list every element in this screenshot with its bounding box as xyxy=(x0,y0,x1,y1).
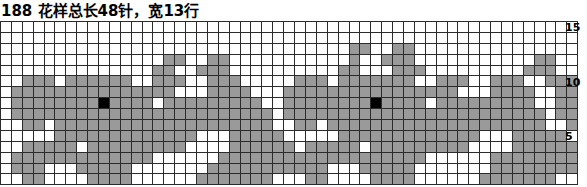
pattern-cell xyxy=(207,87,218,98)
pattern-grid-row xyxy=(1,120,578,131)
pattern-cell xyxy=(142,22,153,33)
pattern-cell xyxy=(164,141,175,152)
pattern-cell xyxy=(109,54,120,65)
pattern-cell xyxy=(88,87,99,98)
pattern-cell xyxy=(77,43,88,54)
pattern-grid-row xyxy=(1,32,578,43)
pattern-grid xyxy=(0,21,578,185)
pattern-cell xyxy=(251,174,262,185)
pattern-cell xyxy=(338,76,349,87)
pattern-cell xyxy=(447,174,458,185)
pattern-cell xyxy=(273,54,284,65)
pattern-cell xyxy=(403,98,414,109)
pattern-cell xyxy=(186,120,197,131)
pattern-cell xyxy=(469,87,480,98)
pattern-cell xyxy=(33,174,44,185)
pattern-cell xyxy=(262,130,273,141)
pattern-cell xyxy=(11,98,22,109)
pattern-cell xyxy=(480,65,491,76)
pattern-cell xyxy=(273,32,284,43)
pattern-cell xyxy=(88,120,99,131)
pattern-cell xyxy=(523,130,534,141)
pattern-cell xyxy=(99,163,110,174)
pattern-cell xyxy=(142,32,153,43)
pattern-cell xyxy=(382,130,393,141)
pattern-cell xyxy=(480,163,491,174)
pattern-cell xyxy=(545,65,556,76)
pattern-cell xyxy=(567,174,578,185)
pattern-cell xyxy=(284,76,295,87)
pattern-cell xyxy=(1,120,12,131)
pattern-cell xyxy=(1,109,12,120)
pattern-cell xyxy=(99,43,110,54)
pattern-cell xyxy=(382,32,393,43)
pattern-cell xyxy=(295,65,306,76)
pattern-cell xyxy=(480,43,491,54)
pattern-cell xyxy=(131,54,142,65)
pattern-cell xyxy=(153,32,164,43)
pattern-cell xyxy=(447,22,458,33)
pattern-cell xyxy=(556,163,567,174)
pattern-cell xyxy=(88,65,99,76)
pattern-cell xyxy=(207,174,218,185)
pattern-cell xyxy=(1,98,12,109)
pattern-cell xyxy=(284,54,295,65)
pattern-cell xyxy=(120,109,131,120)
pattern-cell xyxy=(371,43,382,54)
pattern-cell xyxy=(262,87,273,98)
pattern-cell xyxy=(480,22,491,33)
pattern-cell xyxy=(142,98,153,109)
pattern-cell xyxy=(88,163,99,174)
pattern-cell xyxy=(55,174,66,185)
page-title: 188 花样总长48针，宽13行 xyxy=(0,2,199,20)
pattern-cell xyxy=(338,120,349,131)
pattern-cell xyxy=(251,32,262,43)
pattern-cell xyxy=(240,120,251,131)
pattern-cell xyxy=(175,98,186,109)
pattern-cell xyxy=(316,141,327,152)
pattern-cell xyxy=(11,163,22,174)
pattern-cell xyxy=(480,174,491,185)
pattern-cell xyxy=(33,109,44,120)
pattern-cell xyxy=(382,109,393,120)
pattern-cell xyxy=(393,120,404,131)
pattern-cell xyxy=(425,120,436,131)
pattern-cell xyxy=(44,163,55,174)
pattern-cell xyxy=(251,152,262,163)
pattern-cell xyxy=(436,130,447,141)
pattern-cell xyxy=(523,174,534,185)
pattern-cell xyxy=(11,32,22,43)
pattern-cell xyxy=(512,152,523,163)
pattern-cell xyxy=(327,43,338,54)
pattern-cell xyxy=(229,98,240,109)
pattern-cell xyxy=(480,141,491,152)
pattern-cell xyxy=(11,87,22,98)
pattern-cell xyxy=(327,174,338,185)
pattern-cell xyxy=(491,152,502,163)
pattern-cell xyxy=(512,98,523,109)
pattern-cell xyxy=(295,87,306,98)
pattern-cell xyxy=(327,141,338,152)
pattern-cell xyxy=(305,54,316,65)
pattern-cell xyxy=(218,76,229,87)
pattern-cell xyxy=(66,109,77,120)
pattern-cell xyxy=(88,98,99,109)
pattern-cell xyxy=(545,141,556,152)
pattern-grid-row xyxy=(1,141,578,152)
pattern-cell xyxy=(44,87,55,98)
pattern-cell xyxy=(327,152,338,163)
pattern-cell xyxy=(349,54,360,65)
pattern-cell xyxy=(218,152,229,163)
pattern-cell xyxy=(273,152,284,163)
pattern-cell xyxy=(88,141,99,152)
row-tick-label: 5 xyxy=(565,131,573,142)
pattern-cell xyxy=(360,22,371,33)
pattern-grid-row xyxy=(1,174,578,185)
pattern-cell xyxy=(218,130,229,141)
pattern-cell xyxy=(305,120,316,131)
pattern-cell xyxy=(338,141,349,152)
pattern-cell xyxy=(153,109,164,120)
pattern-cell xyxy=(338,54,349,65)
pattern-cell xyxy=(197,65,208,76)
pattern-cell xyxy=(33,98,44,109)
